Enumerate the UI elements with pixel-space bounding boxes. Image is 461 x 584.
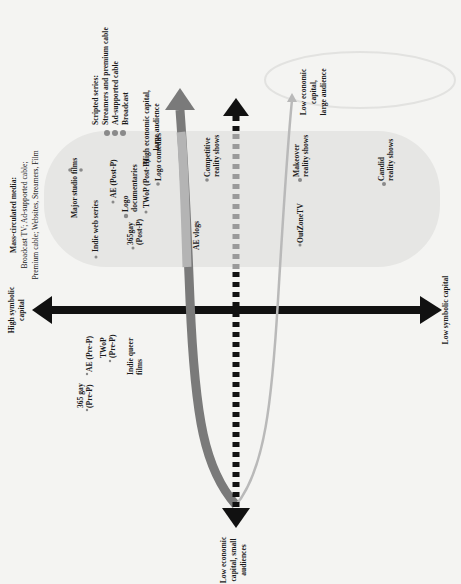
- svg-text:Low economic: Low economic: [299, 68, 308, 115]
- label-low-economic-large-audience: Low economic capital, large audience: [299, 68, 328, 116]
- label-ae-post-p: AE (Post-P): [109, 159, 118, 198]
- svg-text:High economic capital,: High economic capital,: [142, 90, 151, 164]
- label-twop-post-p: TWoP (Post-P): [142, 159, 151, 208]
- scripted-series-label: Scripted series: Streamers and premium c…: [91, 27, 130, 125]
- svg-text:reality shows: reality shows: [386, 139, 395, 181]
- svg-text:Streamers and premium cable: Streamers and premium cable: [101, 27, 110, 125]
- mass-media-region: [44, 131, 440, 267]
- svg-text:reality shows: reality shows: [212, 135, 221, 177]
- label-major-studio-films: Major studio films: [70, 158, 79, 218]
- svg-text:Scripted series:: Scripted series:: [91, 75, 100, 125]
- arrowhead-dashed-up-icon: [223, 98, 249, 116]
- arrowhead-up-icon: [165, 88, 195, 110]
- label-twop-pre-p: TWoP (Pre-P): [99, 334, 117, 358]
- svg-text:capital, small: capital, small: [229, 538, 238, 581]
- svg-text:Makeover: Makeover: [292, 143, 301, 177]
- svg-text:capital,: capital,: [309, 80, 318, 104]
- svg-text:Broadcast TV; Ad-supported cab: Broadcast TV; Ad-supported cable;: [20, 161, 29, 268]
- label-indie-queer-films: Indie queer films: [126, 337, 144, 375]
- svg-text:Premium cable; Websites, Strea: Premium cable; Websites, Streamers, Film: [31, 150, 40, 279]
- svg-text:reality shows: reality shows: [301, 135, 310, 177]
- diagram-canvas: Mass-circulated media: Broadcast TV; Ad-…: [0, 0, 461, 584]
- svg-text:(Pre-P): (Pre-P): [85, 384, 94, 408]
- svg-text:films: films: [135, 359, 144, 375]
- svg-text:(Pre-P): (Pre-P): [108, 334, 117, 358]
- svg-text:Indie queer: Indie queer: [126, 337, 135, 375]
- svg-text:Ad-supported cable: Ad-supported cable: [111, 60, 120, 125]
- mass-media-label: Mass-circulated media: Broadcast TV; Ad-…: [9, 150, 40, 279]
- svg-text:Logo: Logo: [121, 195, 130, 212]
- svg-text:(Post-P): (Post-P): [135, 218, 144, 245]
- label-low-economic-small-audiences: Low economic capital, small audiences: [219, 536, 248, 583]
- svg-text:documentaries: documentaries: [130, 164, 139, 212]
- arrowhead-left-icon: [32, 296, 52, 324]
- symbolic-capital-axis: [32, 296, 442, 324]
- label-logo-comedies: Logo comedies: [154, 133, 163, 181]
- svg-text:Low economic: Low economic: [219, 536, 228, 583]
- svg-text:capital: capital: [17, 299, 26, 321]
- arrowhead-dashed-down-icon: [222, 508, 250, 528]
- svg-text:TWoP: TWoP: [99, 337, 108, 358]
- svg-text:Candid: Candid: [377, 156, 386, 181]
- svg-text:365 gay: 365 gay: [76, 383, 85, 408]
- label-365gay-post-p: 365gay (Post-P): [126, 218, 144, 245]
- label-low-symbolic-capital: Low symbolic capital: [441, 276, 450, 345]
- arrowhead-right-icon: [420, 296, 442, 324]
- label-outzonetv: OutZoneTV: [296, 203, 305, 243]
- label-ae-vlogs: AE vlogs: [192, 221, 201, 250]
- svg-text:Broadcast: Broadcast: [121, 92, 130, 125]
- label-365gay-pre-p: 365 gay (Pre-P): [76, 383, 94, 408]
- svg-text:Mass-circulated media:: Mass-circulated media:: [9, 177, 18, 253]
- label-ae-pre-p: AE (Pre-P): [85, 336, 94, 372]
- svg-text:audiences: audiences: [239, 544, 248, 576]
- label-high-symbolic-capital: High symbolic capital: [7, 286, 26, 333]
- label-indie-web-series: Indie web series: [91, 200, 100, 252]
- svg-text:Competitive: Competitive: [203, 137, 212, 177]
- label-competitive-reality: Competitive reality shows: [203, 135, 221, 177]
- svg-text:large audience: large audience: [319, 68, 328, 116]
- svg-text:High symbolic: High symbolic: [7, 286, 16, 333]
- svg-text:365gay: 365gay: [126, 222, 135, 245]
